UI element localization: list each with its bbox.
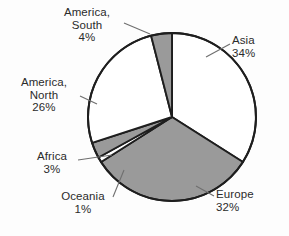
pie-label-europe-percent: 32% [216,201,278,214]
pie-label-oceania-percent: 1% [52,203,114,216]
pie-label-oceania: Oceania 1% [52,190,114,215]
pie-label-africa-line1: Africa [37,150,67,162]
pie-label-europe-line1: Europe [216,188,254,200]
pie-label-europe: Europe 32% [216,188,278,213]
pie-label-asia: Asia 34% [232,34,284,59]
pie-label-america-south-line2: South [72,19,103,31]
pie-label-america-south-line1: America, [64,6,110,18]
pie-label-asia-percent: 34% [232,47,284,60]
pie-label-america-north-line2: North [30,89,59,101]
pie-label-america-south-percent: 4% [48,31,126,44]
pie-label-africa-percent: 3% [24,163,80,176]
pie-chart: America, South 4% Asia 34% America, Nort… [0,0,289,236]
leader-line-america-south [124,23,150,34]
pie-label-america-north-percent: 26% [6,101,82,114]
pie-label-america-north: America, North 26% [6,76,82,114]
pie-label-asia-line1: Asia [232,34,255,46]
pie-label-oceania-line1: Oceania [61,190,105,202]
pie-label-america-south: America, South 4% [48,6,126,44]
pie-label-america-north-line1: America, [21,76,67,88]
pie-label-africa: Africa 3% [24,150,80,175]
